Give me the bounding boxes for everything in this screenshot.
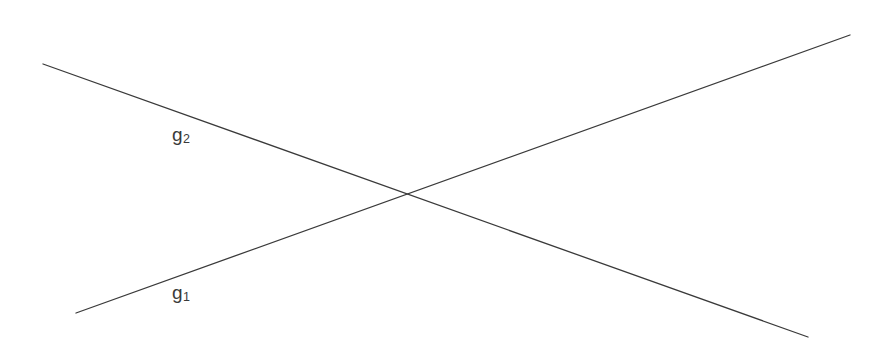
line-g1 bbox=[76, 35, 850, 313]
line-g2 bbox=[43, 64, 808, 337]
label-g1-subscript: 1 bbox=[183, 290, 190, 304]
label-g1: g1 bbox=[172, 283, 190, 302]
label-g1-base: g bbox=[172, 282, 183, 303]
label-g2: g2 bbox=[172, 125, 190, 144]
label-g2-subscript: 2 bbox=[183, 132, 190, 146]
label-g2-base: g bbox=[172, 124, 183, 145]
lines-svg bbox=[0, 0, 885, 353]
line-diagram-canvas: g1 g2 bbox=[0, 0, 885, 353]
